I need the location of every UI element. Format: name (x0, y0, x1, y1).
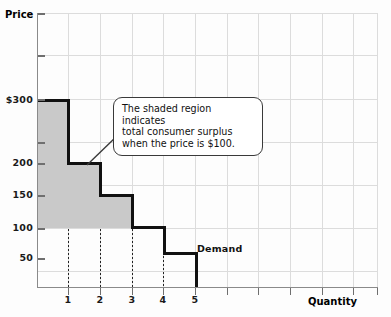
demand-step-100 (131, 226, 166, 229)
y-tick-100 (38, 228, 45, 230)
demand-drop-50-0 (195, 252, 198, 288)
y-tick-300 (38, 99, 45, 101)
gridline-h (37, 228, 378, 229)
y-axis-label-100: 100 (0, 222, 33, 233)
y-axis-label-150: 150 (0, 189, 33, 200)
dotted-guide-q3 (132, 229, 133, 287)
x-axis-label-4: 4 (155, 294, 171, 305)
x-tick (377, 288, 378, 295)
callout-line-1: The shaded region indicates (122, 103, 255, 126)
x-axis-title: Quantity (308, 296, 357, 307)
x-tick (322, 288, 323, 295)
demand-step-50 (163, 252, 198, 255)
y-axis-label-200: 200 (0, 157, 33, 168)
y-axis-label-300: $300 (0, 94, 33, 105)
dotted-guide-q2 (100, 229, 101, 287)
y-tick-200 (38, 163, 45, 165)
callout-line-3: when the price is $100. (122, 138, 255, 150)
x-axis-label-3: 3 (124, 294, 140, 305)
y-tick-150 (38, 195, 45, 197)
x-axis-label-5: 5 (187, 294, 203, 305)
y-tick-50 (38, 258, 45, 260)
gridline-v (377, 13, 378, 287)
demand-series-label: Demand (197, 243, 242, 254)
y-tick (38, 13, 45, 15)
gridline-h (37, 271, 378, 272)
dotted-guide-q4 (163, 252, 164, 287)
y-tick (38, 142, 45, 144)
gridline-v (290, 13, 291, 287)
y-tick (38, 55, 45, 57)
gridline-v (322, 13, 323, 287)
demand-drop-300-200 (67, 99, 70, 165)
shaded-surplus-block-2 (68, 164, 100, 228)
demand-drop-100-50 (163, 226, 166, 254)
demand-step-150 (99, 194, 134, 197)
gridline-h (37, 13, 378, 14)
dotted-guide-q1 (68, 229, 69, 287)
gridline-v (353, 13, 354, 287)
x-tick (353, 288, 354, 295)
x-axis-label-2: 2 (92, 294, 108, 305)
shaded-surplus-block-3 (100, 196, 132, 228)
gridline-h (37, 55, 378, 56)
x-tick (290, 288, 291, 295)
demand-drop-150-100 (131, 194, 134, 229)
x-axis-label-1: 1 (60, 294, 76, 305)
y-axis-title: Price (5, 9, 33, 20)
y-axis-label-50: 50 (0, 252, 33, 263)
demand-drop-200-150 (99, 162, 102, 196)
chart-canvas: $300 200 150 100 50 1 2 3 4 5 Price Quan… (0, 0, 391, 317)
callout-box: The shaded region indicates total consum… (113, 97, 263, 156)
x-axis (37, 287, 378, 288)
x-tick (227, 288, 228, 295)
callout-line-2: total consumer surplus (122, 126, 255, 138)
x-tick (258, 288, 259, 295)
